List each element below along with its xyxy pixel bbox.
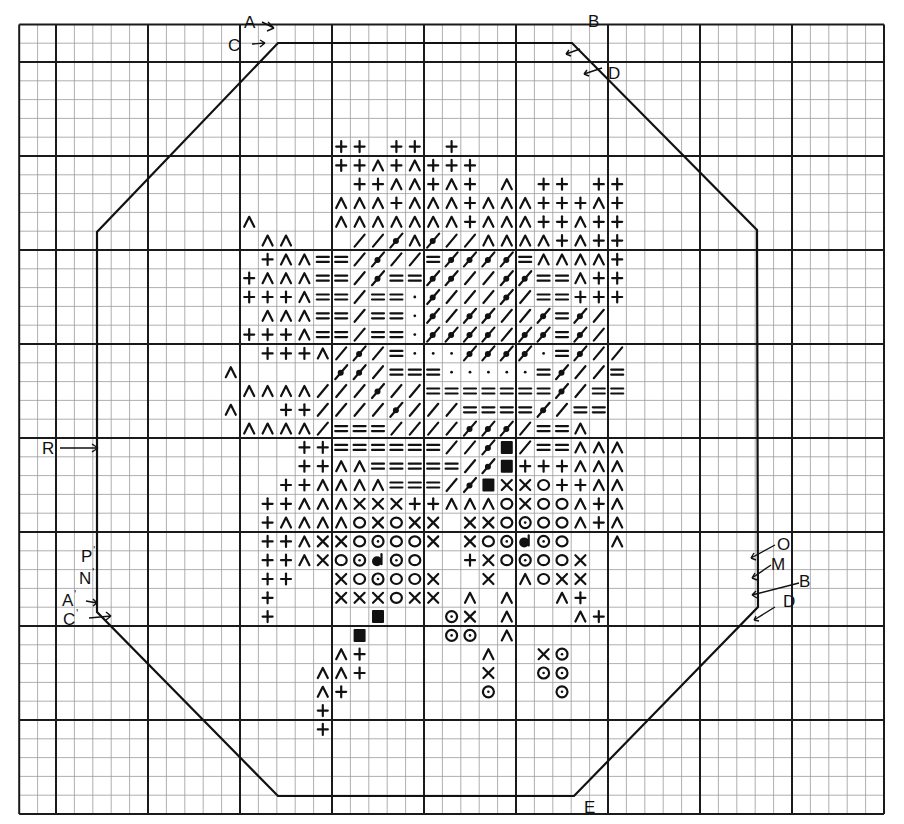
equals-icon [427, 257, 439, 262]
arrow-icon [86, 599, 97, 606]
equals-icon [427, 445, 439, 450]
bead-slash-icon [464, 346, 476, 360]
plus-icon [557, 216, 567, 227]
bead-slash-icon [482, 422, 494, 436]
equals-icon [556, 313, 568, 318]
caret-icon [299, 424, 309, 434]
caret-icon [299, 311, 309, 321]
bead-slash-icon [519, 328, 531, 342]
dotted-circle-icon [354, 555, 365, 566]
bead-slash-icon [501, 252, 513, 266]
caret-icon [373, 160, 383, 170]
equals-icon [335, 276, 347, 281]
equals-icon [317, 313, 329, 318]
caret-icon [355, 461, 365, 471]
plus-icon [318, 442, 328, 453]
slash-icon [373, 404, 383, 416]
caret-icon [318, 348, 328, 358]
caret-icon [299, 254, 309, 264]
bead-slash-icon [372, 252, 384, 266]
slash-icon [447, 479, 457, 491]
plus-icon [281, 329, 291, 340]
equals-icon [519, 407, 531, 412]
plus-icon [447, 141, 457, 152]
caret-icon [502, 612, 512, 622]
solid-square-icon [354, 629, 366, 642]
slash-icon [575, 385, 585, 397]
equals-icon [556, 445, 568, 450]
caret-icon [520, 574, 530, 584]
caret-icon [299, 292, 309, 302]
caret-icon [575, 461, 585, 471]
dotted-circle-icon [465, 630, 476, 641]
bead-slash-icon [501, 290, 513, 304]
plus-icon [612, 292, 622, 303]
caret-icon [594, 198, 604, 208]
bead-slash-icon [464, 328, 476, 342]
dot-icon [469, 371, 472, 374]
equals-icon [482, 407, 494, 412]
equals-icon [390, 313, 402, 318]
caret-icon [355, 217, 365, 227]
bead-slash-icon [538, 328, 550, 342]
equals-icon [390, 464, 402, 469]
caret-icon [336, 649, 346, 659]
slash-icon [410, 385, 420, 397]
plus-icon [465, 160, 475, 171]
plus-icon [594, 179, 604, 190]
caret-icon [373, 198, 383, 208]
circle-icon [538, 555, 549, 565]
cross-icon [428, 574, 438, 584]
bead-slash-icon [354, 365, 366, 379]
equals-icon [409, 445, 421, 450]
equals-icon [519, 389, 531, 394]
caret-icon [318, 480, 328, 490]
cross-icon [557, 574, 567, 584]
slash-icon [465, 235, 475, 247]
bead-slash-icon [427, 234, 439, 248]
bead-slash-icon [464, 252, 476, 266]
equals-icon [482, 389, 494, 394]
caret-icon [575, 612, 585, 622]
bead-slash-icon [574, 328, 586, 342]
caret-icon [263, 311, 273, 321]
plus-icon [594, 611, 604, 622]
cross-icon [410, 593, 420, 603]
slash-icon [520, 441, 530, 453]
circle-icon [391, 593, 402, 603]
circle-icon [501, 518, 512, 528]
caret-icon [575, 273, 585, 283]
equals-icon [372, 295, 384, 300]
bead-slash-icon [538, 403, 550, 417]
caret-icon [428, 217, 438, 227]
plus-icon [355, 649, 365, 660]
plus-icon [447, 160, 457, 171]
caret-icon [299, 386, 309, 396]
plus-icon [299, 442, 309, 453]
caret-icon [299, 499, 309, 509]
bead-slash-icon [556, 384, 568, 398]
slash-icon [355, 404, 365, 416]
plus-icon [263, 592, 273, 603]
cross-icon [483, 668, 493, 678]
plus-icon [373, 179, 383, 190]
caret-icon [447, 217, 457, 227]
caret-icon [594, 442, 604, 452]
caret-icon [612, 461, 622, 471]
slash-icon [447, 310, 457, 322]
circle-icon [501, 555, 512, 565]
plus-icon [465, 179, 475, 190]
slash-icon [447, 404, 457, 416]
equals-icon [372, 445, 384, 450]
plus-icon [281, 574, 291, 585]
equals-icon [574, 407, 586, 412]
equals-icon [427, 370, 439, 375]
plus-icon [539, 198, 549, 209]
arrow-icon [60, 444, 98, 452]
caret-icon [502, 179, 512, 189]
plus-icon [263, 517, 273, 528]
slash-icon [355, 253, 365, 265]
dot-icon [432, 352, 435, 355]
circle-icon [354, 518, 365, 528]
plus-icon [336, 686, 346, 697]
